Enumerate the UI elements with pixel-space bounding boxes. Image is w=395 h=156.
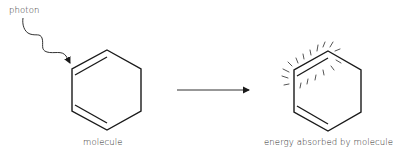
double-bond-bottom — [297, 106, 328, 124]
double-bond-top — [75, 57, 107, 75]
molecule-label: molecule — [83, 137, 123, 147]
photon-wavy-arrow — [23, 18, 70, 63]
photon-label: photon — [9, 5, 40, 15]
diagram-canvas — [0, 0, 395, 156]
energy-glow-rays — [282, 42, 341, 88]
molecule-hexagon — [72, 50, 141, 130]
double-bond-bottom — [75, 105, 107, 123]
excited-molecule-hexagon — [294, 51, 361, 131]
energy-absorbed-label: energy absorbed by molecule — [264, 137, 393, 147]
